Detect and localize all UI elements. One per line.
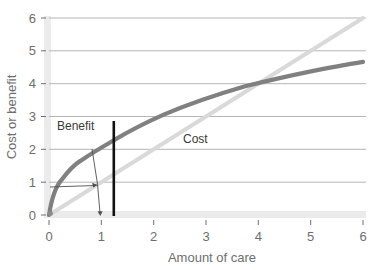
cost-series-label: Cost [183,132,208,146]
y-tick-label-4: 4 [29,76,36,91]
y-tick-label-0: 0 [29,208,36,223]
x-tick-label-2: 2 [150,229,157,244]
y-tick-label-1: 1 [29,175,36,190]
x-tick-label-4: 4 [255,229,262,244]
x-tick-label-3: 3 [202,229,209,244]
x-tick-label-5: 5 [307,229,314,244]
chart-svg: 6 5 4 3 2 1 0 0 1 2 3 4 5 6 Amount of ca… [0,0,382,270]
y-axis-title: Cost or benefit [4,74,19,159]
x-axis-band [44,211,366,218]
x-axis-title: Amount of care [168,250,256,265]
y-tick-label-2: 2 [29,142,36,157]
benefit-series-label: Benefit [57,119,95,133]
x-tick-label-6: 6 [359,229,366,244]
y-tick-label-6: 6 [29,11,36,26]
x-tick-label-0: 0 [45,229,52,244]
curve-origin-point [48,211,53,216]
y-tick-label-5: 5 [29,43,36,58]
x-tick-label-1: 1 [98,229,105,244]
chart-figure: 6 5 4 3 2 1 0 0 1 2 3 4 5 6 Amount of ca… [0,0,382,270]
y-tick-label-3: 3 [29,109,36,124]
